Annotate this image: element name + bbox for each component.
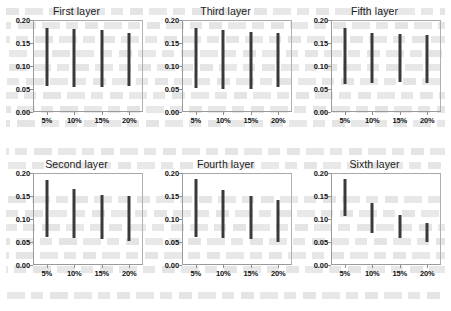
y-tick-label: 0.05 bbox=[314, 85, 328, 94]
plot-frame bbox=[331, 20, 441, 112]
plot-area: 0.000.050.100.150.20 bbox=[182, 20, 292, 112]
range-bar bbox=[398, 34, 401, 82]
plot-frame bbox=[33, 173, 143, 265]
range-bar bbox=[371, 203, 374, 233]
y-axis-tick bbox=[30, 219, 33, 220]
range-bar bbox=[45, 28, 48, 86]
x-tick-label: 15% bbox=[243, 269, 258, 278]
x-tick-label: 10% bbox=[216, 269, 231, 278]
y-axis-labels: 0.000.050.100.150.20 bbox=[300, 20, 328, 112]
range-bar bbox=[100, 195, 103, 240]
y-tick-label: 0.15 bbox=[314, 191, 328, 200]
x-tick-label: 5% bbox=[41, 269, 52, 278]
range-bar bbox=[343, 179, 346, 216]
x-tick-label: 10% bbox=[67, 116, 82, 125]
y-axis-tick bbox=[30, 43, 33, 44]
plot-area: 0.000.050.100.150.20 bbox=[33, 20, 143, 112]
y-axis-tick bbox=[328, 112, 331, 113]
x-axis-labels: 5%10%15%20% bbox=[331, 114, 441, 128]
y-axis-tick bbox=[328, 20, 331, 21]
y-axis-tick bbox=[179, 196, 182, 197]
y-axis-labels: 0.000.050.100.150.20 bbox=[2, 173, 30, 265]
x-tick-label: 5% bbox=[41, 116, 52, 125]
x-tick-label: 15% bbox=[392, 269, 407, 278]
y-tick-label: 0.10 bbox=[165, 62, 179, 71]
y-axis-tick bbox=[328, 43, 331, 44]
chart-panel-fifth: Fifth layer 0.000.050.100.150.20 5%10%15… bbox=[300, 4, 449, 157]
y-tick-label: 0.05 bbox=[165, 85, 179, 94]
x-tick-label: 15% bbox=[392, 116, 407, 125]
range-bar bbox=[128, 196, 131, 240]
range-bar bbox=[73, 29, 76, 87]
x-tick-label: 20% bbox=[122, 269, 137, 278]
y-axis-labels: 0.000.050.100.150.20 bbox=[151, 20, 179, 112]
y-axis-tick bbox=[30, 66, 33, 67]
y-axis-tick bbox=[179, 242, 182, 243]
y-tick-label: 0.20 bbox=[165, 16, 179, 25]
y-axis-labels: 0.000.050.100.150.20 bbox=[151, 173, 179, 265]
y-tick-label: 0.20 bbox=[314, 168, 328, 177]
y-tick-label: 0.20 bbox=[314, 16, 328, 25]
x-tick-label: 5% bbox=[190, 116, 201, 125]
plot-frame bbox=[331, 173, 441, 265]
y-tick-label: 0.00 bbox=[16, 260, 30, 269]
y-axis-tick bbox=[30, 196, 33, 197]
y-tick-label: 0.10 bbox=[314, 214, 328, 223]
x-tick-label: 20% bbox=[122, 116, 137, 125]
y-axis-tick bbox=[328, 173, 331, 174]
range-bar bbox=[100, 30, 103, 87]
range-bar bbox=[194, 28, 197, 88]
chart-panel-second: Second layer 0.000.050.100.150.20 5%10%1… bbox=[2, 157, 151, 310]
x-tick-label: 20% bbox=[271, 116, 286, 125]
y-tick-label: 0.00 bbox=[16, 108, 30, 117]
x-tick-label: 5% bbox=[339, 269, 350, 278]
y-tick-label: 0.15 bbox=[165, 39, 179, 48]
y-axis-tick bbox=[179, 265, 182, 266]
chart-panel-fourth: Fourth layer 0.000.050.100.150.20 5%10%1… bbox=[151, 157, 300, 310]
x-tick-label: 5% bbox=[339, 116, 350, 125]
y-tick-label: 0.00 bbox=[314, 108, 328, 117]
y-tick-label: 0.05 bbox=[16, 237, 30, 246]
plot-area: 0.000.050.100.150.20 bbox=[182, 173, 292, 265]
range-bar bbox=[128, 33, 131, 86]
y-tick-label: 0.15 bbox=[16, 39, 30, 48]
y-axis-tick bbox=[179, 112, 182, 113]
y-tick-label: 0.05 bbox=[16, 85, 30, 94]
y-axis-tick bbox=[328, 66, 331, 67]
x-tick-label: 15% bbox=[243, 116, 258, 125]
y-axis-tick bbox=[328, 219, 331, 220]
plot-area: 0.000.050.100.150.20 bbox=[331, 20, 441, 112]
x-axis-labels: 5%10%15%20% bbox=[33, 114, 143, 128]
range-bar bbox=[222, 30, 225, 89]
chart-panel-sixth: Sixth layer 0.000.050.100.150.20 5%10%15… bbox=[300, 157, 449, 310]
y-tick-label: 0.15 bbox=[165, 191, 179, 200]
x-tick-label: 15% bbox=[94, 116, 109, 125]
range-bar bbox=[222, 190, 225, 238]
chart-grid: First layer 0.000.050.100.150.20 5%10%15… bbox=[0, 0, 451, 311]
range-bar bbox=[249, 196, 252, 240]
y-axis-tick bbox=[328, 265, 331, 266]
plot-frame bbox=[182, 173, 292, 265]
x-axis-labels: 5%10%15%20% bbox=[182, 114, 292, 128]
y-axis-tick bbox=[30, 242, 33, 243]
y-tick-label: 0.15 bbox=[314, 39, 328, 48]
range-bar bbox=[426, 223, 429, 241]
chart-panel-first: First layer 0.000.050.100.150.20 5%10%15… bbox=[2, 4, 151, 157]
x-tick-label: 10% bbox=[365, 269, 380, 278]
x-tick-label: 15% bbox=[94, 269, 109, 278]
plot-area: 0.000.050.100.150.20 bbox=[33, 173, 143, 265]
y-tick-label: 0.00 bbox=[165, 108, 179, 117]
x-tick-label: 20% bbox=[420, 269, 435, 278]
y-axis-tick bbox=[328, 242, 331, 243]
y-axis-tick bbox=[179, 219, 182, 220]
y-axis-labels: 0.000.050.100.150.20 bbox=[2, 20, 30, 112]
y-tick-label: 0.20 bbox=[165, 168, 179, 177]
x-tick-label: 10% bbox=[216, 116, 231, 125]
x-tick-label: 5% bbox=[190, 269, 201, 278]
range-bar bbox=[398, 215, 401, 238]
y-tick-label: 0.10 bbox=[16, 214, 30, 223]
x-tick-label: 10% bbox=[365, 116, 380, 125]
y-axis-tick bbox=[179, 89, 182, 90]
y-tick-label: 0.00 bbox=[314, 260, 328, 269]
y-tick-label: 0.05 bbox=[314, 237, 328, 246]
